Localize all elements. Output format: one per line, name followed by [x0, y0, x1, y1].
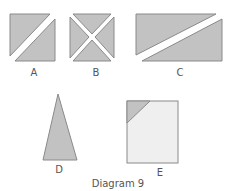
- label-b: B: [93, 68, 100, 78]
- diagram-caption: Diagram 9: [92, 178, 144, 189]
- label-e: E: [157, 168, 163, 178]
- shape-b: [70, 14, 114, 61]
- shape-c: [136, 14, 222, 61]
- shape-e: [127, 101, 178, 163]
- diagram-canvas: [0, 0, 227, 191]
- label-d: D: [55, 165, 63, 175]
- shape-a: [10, 14, 55, 61]
- label-c: C: [177, 68, 184, 78]
- label-a: A: [31, 68, 38, 78]
- shape-d: [43, 94, 77, 160]
